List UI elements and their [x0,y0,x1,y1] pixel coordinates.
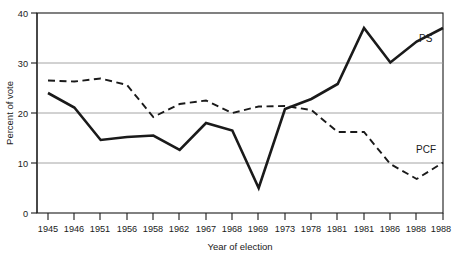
x-tick-label: 1988 [406,224,426,234]
x-tick-label: 1981 [354,224,374,234]
y-tick-label: 40 [18,9,28,19]
x-axis-ticks [48,213,443,220]
y-axis-title: Percent of vote [4,81,15,145]
x-tick-label: 1981 [327,224,347,234]
x-tick-label: 1988 [431,224,451,234]
x-tick-label: 1969 [248,224,268,234]
series-label-ps: PS [419,33,433,44]
x-tick-label: 1973 [275,224,295,234]
x-tick-label: 1946 [64,224,84,234]
x-tick-label: 1958 [143,224,163,234]
x-axis-title: Year of election [207,241,272,252]
y-tick-label: 10 [18,159,28,169]
series-label-pcf: PCF [416,144,436,155]
x-tick-label: 1956 [117,224,137,234]
x-tick-label: 1962 [169,224,189,234]
x-tick-label: 1967 [196,224,216,234]
x-tick-label: 1986 [380,224,400,234]
line-chart: 40 30 20 10 0 Percent of vote [0,0,452,256]
y-tick-labels: 40 30 20 10 0 [18,9,28,219]
y-tick-label: 30 [18,59,28,69]
y-tick-label: 20 [18,109,28,119]
x-tick-label: 1945 [38,224,58,234]
y-tick-label: 0 [23,209,28,219]
x-tick-label: 1968 [222,224,242,234]
y-axis-ticks [31,13,37,213]
x-tick-labels: 1945 1946 1951 1956 1958 1962 1967 1968 … [38,224,451,234]
x-tick-label: 1951 [90,224,110,234]
chart-page: 40 30 20 10 0 Percent of vote [0,0,452,256]
x-tick-label: 1978 [301,224,321,234]
